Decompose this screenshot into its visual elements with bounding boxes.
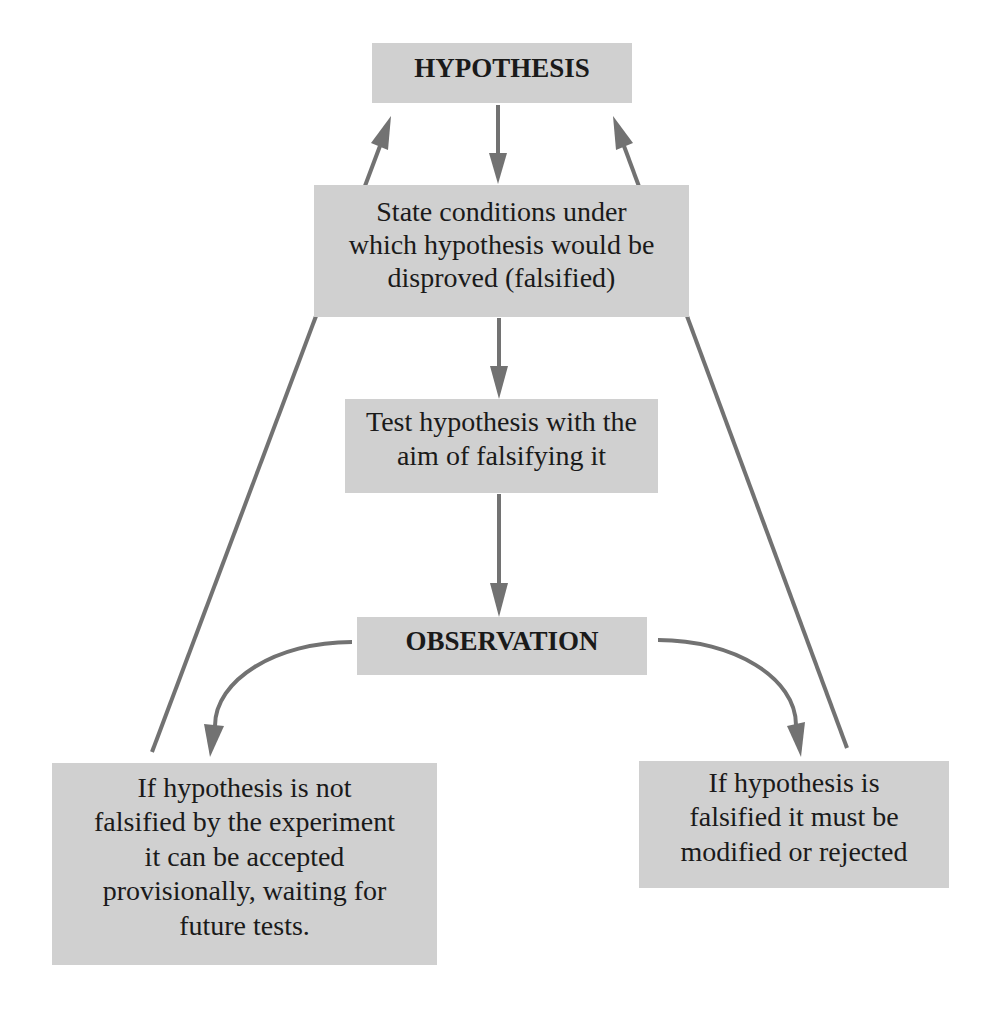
node-not-falsified-outcome: If hypothesis is not falsified by the ex… [52,763,437,965]
node-hypothesis: HYPOTHESIS [372,43,632,103]
node-text-line: falsified by the experiment [94,805,395,840]
node-observation: OBSERVATION [357,617,647,675]
arrow-hypothesis-to-state-conditions [489,105,507,184]
node-test-hypothesis: Test hypothesis with the aim of falsifyi… [345,399,658,493]
arrow-observation-to-not-falsified [204,642,352,757]
scientific-method-diagram: HYPOTHESIS State conditions under which … [0,0,998,1010]
node-text-line: provisionally, waiting for [103,874,387,909]
arrow-observation-to-falsified [658,640,805,757]
node-text-line: aim of falsifying it [397,439,606,473]
node-text-line: it can be accepted [145,840,345,875]
arrow-test-to-observation [490,494,508,617]
node-text-line: Test hypothesis with the [366,405,637,439]
arrow-state-conditions-to-test [490,318,508,399]
node-text-line: modified or rejected [680,835,907,870]
node-label: HYPOTHESIS [414,52,590,84]
node-falsified-outcome: If hypothesis is falsified it must be mo… [639,761,949,888]
node-text-line: If hypothesis is [708,766,879,801]
node-state-conditions: State conditions under which hypothesis … [314,185,689,317]
node-text-line: disproved (falsified) [388,261,616,294]
node-text-line: falsified it must be [689,800,898,835]
node-text-line: which hypothesis would be [349,228,655,261]
node-text-line: If hypothesis is not [138,771,352,806]
node-label: OBSERVATION [405,625,598,657]
node-text-line: future tests. [179,909,310,944]
node-text-line: State conditions under [376,195,626,228]
